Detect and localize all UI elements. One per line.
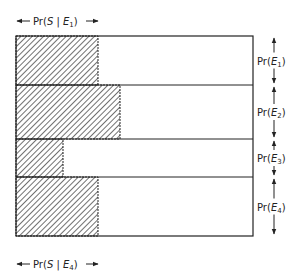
hatched-region-e4 — [16, 177, 98, 236]
hatched-regions — [16, 36, 120, 236]
hatched-region-e1 — [16, 36, 98, 85]
hatched-region-e2 — [16, 85, 120, 139]
probability-diagram: Pr(S | E1) Pr(E1)Pr(E2)Pr(E3)Pr(E4) Pr(S… — [0, 0, 304, 274]
hatched-region-e3 — [16, 139, 63, 177]
bottom-label-text: Pr(S | E4) — [33, 259, 78, 272]
top-label-text: Pr(S | E1) — [33, 16, 78, 29]
bottom-conditional-label: Pr(S | E4) — [17, 259, 98, 272]
row-probability-labels: Pr(E1)Pr(E2)Pr(E3)Pr(E4) — [256, 38, 296, 234]
top-conditional-label: Pr(S | E1) — [17, 16, 98, 29]
